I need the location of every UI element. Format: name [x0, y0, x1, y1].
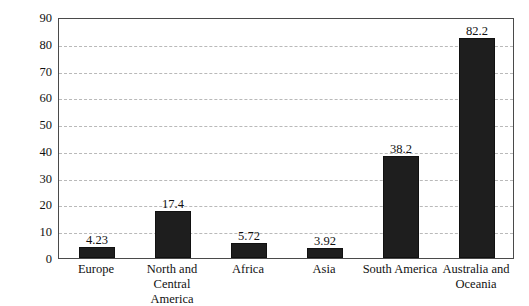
x-axis-category-label: North and CentralAmerica — [130, 262, 214, 306]
x-axis-category-label: South America — [358, 262, 442, 277]
x-axis-category-label-line: Asia — [282, 262, 366, 277]
bar-value-label: 3.92 — [295, 234, 355, 248]
y-axis-tick-label: 60 — [28, 92, 52, 104]
x-axis-category-label: Asia — [282, 262, 366, 277]
x-axis-category-label: Africa — [206, 262, 290, 277]
y-axis-tick-label: 20 — [28, 199, 52, 211]
bar — [231, 243, 267, 258]
gridline — [59, 233, 513, 234]
bar — [459, 38, 495, 258]
gridline — [59, 180, 513, 181]
y-axis-tick-label: 80 — [28, 39, 52, 51]
bar-value-label: 38.2 — [371, 142, 431, 156]
x-axis-category-label: Europe — [54, 262, 138, 277]
y-axis-tick-label: 10 — [28, 226, 52, 238]
x-axis-category-label-line: Oceania — [434, 277, 518, 292]
y-axis-tick-label: 70 — [28, 66, 52, 78]
bar — [383, 156, 419, 258]
plot-area: 4.2317.45.723.9238.282.2 — [58, 18, 514, 259]
y-axis-tick-label: 40 — [28, 146, 52, 158]
x-axis-category-label: Australia andOceania — [434, 262, 518, 292]
gridline — [59, 126, 513, 127]
x-axis-category-labels: EuropeNorth and CentralAmericaAfricaAsia… — [58, 262, 514, 306]
bar-value-label: 4.23 — [67, 233, 127, 247]
x-axis-category-label-line: Europe — [54, 262, 138, 277]
y-axis-tick-label: 90 — [28, 12, 52, 24]
gridline — [59, 206, 513, 207]
bar — [79, 247, 115, 258]
gridline — [59, 46, 513, 47]
y-axis-tick-label: 30 — [28, 173, 52, 185]
x-axis-category-label-line: America — [130, 292, 214, 306]
bar — [307, 248, 343, 258]
gridline — [59, 99, 513, 100]
gridline — [59, 73, 513, 74]
bar-chart-figure: 1000 cubic meters per person per year 01… — [0, 0, 529, 306]
bar-value-label: 5.72 — [219, 229, 279, 243]
x-axis-category-label-line: Australia and — [434, 262, 518, 277]
bar-value-label: 17.4 — [143, 197, 203, 211]
gridline — [59, 153, 513, 154]
bar — [155, 211, 191, 258]
bar-value-label: 82.2 — [447, 24, 507, 38]
x-axis-category-label-line: Africa — [206, 262, 290, 277]
y-axis-tick-label: 0 — [28, 253, 52, 265]
x-axis-category-label-line: South America — [358, 262, 442, 277]
y-axis-tick-label: 50 — [28, 119, 52, 131]
x-axis-category-label-line: North and Central — [130, 262, 214, 292]
